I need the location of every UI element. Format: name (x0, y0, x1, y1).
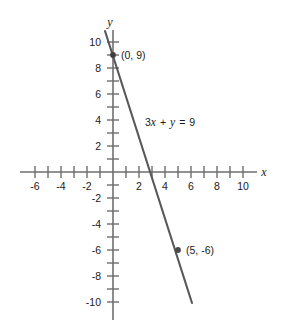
x-axis-label: x (260, 165, 267, 179)
y-tick-label-10: 10 (89, 36, 101, 48)
y-tick-label-neg6: -6 (92, 244, 101, 256)
y-tick-label-2: 2 (95, 140, 101, 152)
data-point-label-5-neg6: (5, -6) (186, 244, 214, 256)
x-tick-label-8: 8 (214, 180, 220, 192)
y-tick-label-4: 4 (95, 114, 101, 126)
x-tick-label-2: 2 (136, 180, 142, 192)
equation-x-symbol: x (150, 116, 157, 128)
svg-text:3x+y=9: 3x+y=9 (145, 116, 195, 129)
equation-annotation: 3x+y=9 (145, 116, 195, 129)
x-tick-label-neg6: -6 (30, 180, 39, 192)
y-tick-label-neg10: -10 (86, 296, 101, 308)
equation-operator: + (160, 116, 166, 128)
x-tick-label-neg4: -4 (56, 180, 65, 192)
x-tick-label-6: 6 (188, 180, 194, 192)
equation-constant: 9 (189, 116, 195, 128)
y-tick-label-neg8: -8 (92, 270, 101, 282)
x-tick-label-10: 10 (237, 180, 249, 192)
y-tick-label-neg2: -2 (92, 192, 101, 204)
equation-equals: = (179, 116, 185, 128)
x-tick-label-neg2: -2 (82, 180, 91, 192)
y-tick-label-neg4: -4 (92, 218, 101, 230)
data-point-marker-0-9 (110, 52, 116, 58)
coordinate-plane: -6 -4 -2 2 4 6 8 10 10 8 6 4 2 -2 -4 -6 … (0, 0, 281, 332)
data-point-label-0-9: (0, 9) (121, 49, 146, 61)
y-axis-label: y (106, 15, 113, 29)
equation-y-symbol: y (169, 116, 176, 129)
equation-line (105, 31, 192, 303)
x-tick-label-4: 4 (162, 180, 168, 192)
graph-figure: -6 -4 -2 2 4 6 8 10 10 8 6 4 2 -2 -4 -6 … (0, 0, 281, 332)
data-point-marker-5-neg6 (175, 247, 181, 253)
y-tick-label-8: 8 (95, 62, 101, 74)
y-tick-label-6: 6 (95, 88, 101, 100)
